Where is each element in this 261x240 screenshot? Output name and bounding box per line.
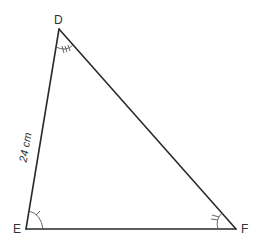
vertex-label-d: D [54, 13, 63, 27]
side-label-de: 24 cm [16, 132, 33, 165]
angle-mark-d [56, 45, 73, 53]
side-df [59, 29, 236, 229]
side-de [26, 29, 59, 229]
angle-mark-f [211, 213, 222, 229]
vertex-label-f: F [241, 222, 248, 236]
triangle-diagram: D E F 24 cm [0, 0, 261, 240]
angle-mark-e [29, 211, 43, 229]
vertex-label-e: E [13, 222, 21, 236]
